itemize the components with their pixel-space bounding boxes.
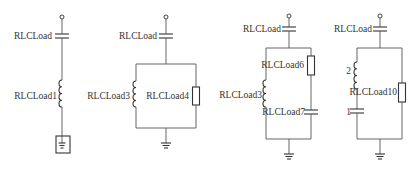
- inductor-label: RLCLoad1: [14, 91, 57, 101]
- capacitor-icon: [159, 34, 173, 38]
- terminal-icon: [378, 14, 382, 18]
- ground-icon: [161, 143, 171, 148]
- resistor-icon: [193, 87, 200, 105]
- resistor-label: RLCLoad10: [350, 87, 398, 97]
- inductor-label: RLCLoad3: [219, 90, 262, 100]
- capacitor2-label: RLCLoad7: [262, 107, 305, 117]
- inductor-label: RLCLoad3: [87, 91, 130, 101]
- capacitor-label: RLCLoad: [14, 31, 52, 41]
- boxed-ground-icon: [56, 136, 70, 153]
- resistor-icon: [399, 83, 406, 102]
- terminal-icon: [60, 15, 64, 19]
- ground-icon: [375, 154, 385, 159]
- ground-icon: [284, 154, 294, 159]
- capacitor-icon: [373, 27, 387, 31]
- circuit-diagram: RLCLoad RLCLoad1 RLCLoad RLCLoad3 RLCLoa…: [0, 0, 419, 171]
- inductor-icon: [354, 62, 357, 89]
- capacitor-label: RLCLoad: [119, 31, 157, 41]
- inductor-icon: [59, 80, 62, 107]
- resistor-label: RLCLoad6: [261, 60, 304, 70]
- terminal-icon: [164, 15, 168, 19]
- capacitor-icon: [304, 110, 318, 114]
- circuit-1: RLCLoad RLCLoad1: [14, 15, 70, 153]
- inductor-icon: [133, 81, 136, 107]
- resistor-label: RLCLoad4: [146, 91, 189, 101]
- circuit-4: RLCLoad 2 1 RLCLoad10: [334, 14, 406, 159]
- capacitor-icon: [282, 27, 296, 31]
- circuit-2: RLCLoad RLCLoad3 RLCLoad4: [87, 15, 199, 148]
- capacitor-icon: [350, 109, 364, 113]
- inductor-icon: [263, 80, 266, 107]
- inductor-label: 2: [346, 66, 351, 76]
- capacitor-label: RLCLoad: [243, 24, 281, 34]
- resistor-icon: [308, 56, 315, 75]
- terminal-icon: [287, 14, 291, 18]
- capacitor-label: RLCLoad: [334, 24, 372, 34]
- capacitor-icon: [55, 34, 69, 38]
- circuit-3: RLCLoad RLCLoad3 RLCLoad6 RLCLoad7: [219, 14, 318, 159]
- capacitor2-label: 1: [346, 107, 351, 117]
